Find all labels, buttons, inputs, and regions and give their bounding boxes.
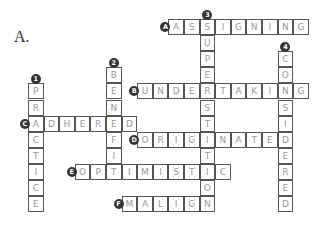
crossword-cell[interactable]: E xyxy=(200,67,216,83)
clue-number-badge: F xyxy=(114,199,124,209)
crossword-cell[interactable]: I xyxy=(153,164,169,180)
crossword-cell[interactable]: A xyxy=(28,116,44,132)
crossword-cell[interactable]: S xyxy=(278,100,294,116)
crossword-cell[interactable]: M xyxy=(122,196,138,212)
crossword-cell[interactable]: L xyxy=(153,196,169,212)
crossword-cell[interactable]: O xyxy=(200,180,216,196)
crossword-cell[interactable]: C xyxy=(28,132,44,148)
crossword-cell[interactable]: D xyxy=(122,116,138,132)
crossword-cell[interactable]: N xyxy=(200,196,216,212)
crossword-cell[interactable]: N xyxy=(278,83,294,99)
crossword-cell[interactable]: I xyxy=(168,196,184,212)
crossword-cell[interactable]: N xyxy=(153,83,169,99)
crossword-cell[interactable]: G xyxy=(293,19,309,35)
crossword-cell[interactable]: I xyxy=(200,132,216,148)
clue-number-badge: E xyxy=(67,167,77,177)
crossword-cell[interactable]: E xyxy=(278,180,294,196)
crossword-cell[interactable]: O xyxy=(75,164,91,180)
crossword-cell[interactable]: T xyxy=(200,148,216,164)
crossword-cell[interactable]: A xyxy=(231,83,247,99)
crossword-cell[interactable]: N xyxy=(246,19,262,35)
crossword-cell[interactable]: I xyxy=(200,164,216,180)
crossword-cell[interactable]: O xyxy=(137,132,153,148)
crossword-cell[interactable]: T xyxy=(28,148,44,164)
crossword-cell[interactable]: A xyxy=(168,19,184,35)
crossword-cell[interactable]: N xyxy=(278,19,294,35)
crossword-cell[interactable]: E xyxy=(262,132,278,148)
crossword-cell[interactable]: G xyxy=(184,196,200,212)
crossword-cell[interactable]: G xyxy=(184,132,200,148)
crossword-cell[interactable]: P xyxy=(28,83,44,99)
crossword-cell[interactable]: I xyxy=(28,164,44,180)
crossword-cell[interactable]: A xyxy=(137,196,153,212)
crossword-cell[interactable]: B xyxy=(106,67,122,83)
crossword-cell[interactable]: N xyxy=(215,132,231,148)
crossword-cell[interactable]: I xyxy=(106,148,122,164)
crossword-cell[interactable]: R xyxy=(200,83,216,99)
crossword-cell[interactable]: C xyxy=(278,51,294,67)
crossword-cell[interactable]: R xyxy=(278,164,294,180)
crossword-cell[interactable]: G xyxy=(231,19,247,35)
crossword-cell[interactable]: T xyxy=(215,83,231,99)
crossword-cell[interactable]: D xyxy=(278,196,294,212)
crossword-cell[interactable]: F xyxy=(106,132,122,148)
crossword-cell[interactable]: E xyxy=(184,83,200,99)
crossword-cell[interactable]: I xyxy=(215,19,231,35)
crossword-cell[interactable]: E xyxy=(106,116,122,132)
clue-number-badge: C xyxy=(20,119,30,129)
crossword-cell[interactable]: T xyxy=(200,116,216,132)
crossword-cell[interactable]: C xyxy=(215,164,231,180)
crossword-cell[interactable]: H xyxy=(59,116,75,132)
crossword-cell[interactable]: S xyxy=(200,100,216,116)
crossword-cell[interactable]: K xyxy=(246,83,262,99)
crossword-cell[interactable]: E xyxy=(75,116,91,132)
crossword-cell[interactable]: I xyxy=(168,132,184,148)
crossword-cell[interactable]: P xyxy=(200,51,216,67)
crossword-cell[interactable]: S xyxy=(168,164,184,180)
crossword-cell[interactable]: R xyxy=(90,116,106,132)
crossword-cell[interactable]: U xyxy=(200,35,216,51)
crossword-cell[interactable]: D xyxy=(168,83,184,99)
crossword-cell[interactable]: I xyxy=(278,116,294,132)
crossword-cell[interactable]: A xyxy=(231,132,247,148)
crossword-cell[interactable]: T xyxy=(246,132,262,148)
crossword-cell[interactable]: S xyxy=(200,19,216,35)
crossword-cell[interactable]: U xyxy=(137,83,153,99)
crossword-cell[interactable]: I xyxy=(262,83,278,99)
crossword-cell[interactable]: E xyxy=(278,148,294,164)
crossword-cell[interactable]: P xyxy=(90,164,106,180)
crossword-cell[interactable]: R xyxy=(153,132,169,148)
crossword-cell[interactable]: S xyxy=(184,19,200,35)
crossword-cell[interactable]: O xyxy=(278,67,294,83)
crossword-cell[interactable]: E xyxy=(106,83,122,99)
crossword-cell[interactable]: E xyxy=(28,196,44,212)
clue-number-badge: D xyxy=(129,135,139,145)
crossword-cell[interactable]: C xyxy=(28,180,44,196)
crossword-cell[interactable]: D xyxy=(278,132,294,148)
crossword-cell[interactable]: I xyxy=(122,164,138,180)
puzzle-label: A. xyxy=(14,28,30,46)
crossword-cell[interactable]: N xyxy=(106,100,122,116)
crossword-cell[interactable]: I xyxy=(262,19,278,35)
crossword-cell[interactable]: D xyxy=(44,116,60,132)
crossword-cell[interactable]: M xyxy=(137,164,153,180)
crossword-cell[interactable]: T xyxy=(106,164,122,180)
crossword-cell[interactable]: T xyxy=(184,164,200,180)
crossword-cell[interactable]: G xyxy=(293,83,309,99)
crossword-cell[interactable]: R xyxy=(28,100,44,116)
